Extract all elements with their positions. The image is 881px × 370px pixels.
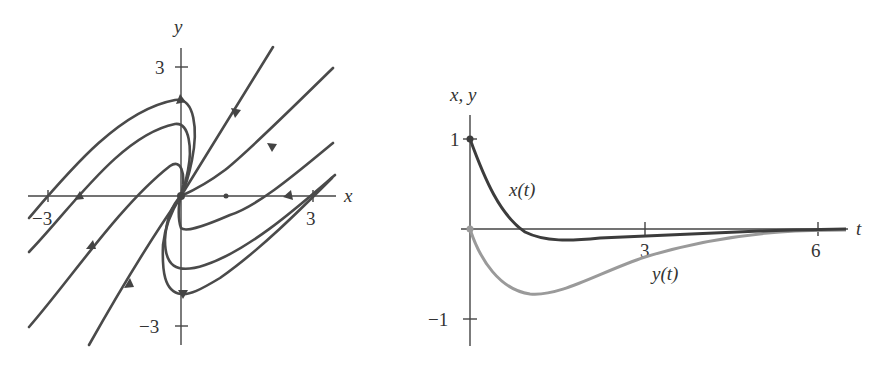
y-initial-point [467, 226, 474, 233]
x-axis-label: x [343, 185, 353, 206]
figure: x y −3 3 3 −3 [0, 0, 881, 370]
trajectory-curve-6 [29, 100, 195, 218]
series-label-y: y(t) [650, 263, 678, 285]
arrow-icon [267, 143, 277, 152]
equilibrium-point [177, 192, 185, 200]
y-axis-label: y [172, 16, 183, 37]
arrow-icon [283, 190, 293, 200]
tick-label-t-6: 6 [811, 240, 821, 261]
trajectory-line-2 [181, 68, 333, 196]
xy-axis-label: x, y [449, 84, 477, 105]
phase-portrait: x y −3 3 3 −3 [28, 16, 353, 345]
tick-label-y-neg3: −3 [139, 316, 159, 337]
series-label-x: x(t) [508, 179, 535, 201]
solution-plot: t x, y 3 6 1 −1 x(t) y(t) [428, 84, 862, 346]
trajectory-line-9 [89, 196, 181, 345]
crossing-point [224, 194, 229, 199]
trajectory-curve-8 [29, 164, 183, 327]
tick-label-y-1: 1 [450, 129, 460, 150]
arrow-icon [86, 240, 96, 249]
t-axis-label: t [856, 218, 862, 239]
tick-label-y-neg1: −1 [428, 309, 448, 330]
tick-label-x-3: 3 [306, 208, 316, 229]
x-initial-point [467, 136, 474, 143]
series-y-curve [470, 229, 846, 294]
tick-label-y-3: 3 [155, 57, 165, 78]
